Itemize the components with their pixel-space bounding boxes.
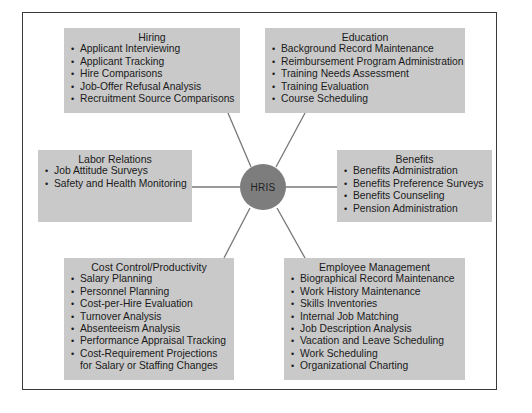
list-item: Cost-Requirement Projections for Salary … [70,348,230,373]
box-title: Labor Relations [44,153,186,165]
list-item: Safety and Health Monitoring [44,178,186,190]
list-item: Course Scheduling [271,93,459,105]
list-item: Benefits Counseling [343,190,486,202]
list-item: Job Attitude Surveys [44,165,186,177]
list-item: Salary Planning [70,273,228,285]
list-item: Performance Appraisal Tracking [70,335,228,347]
list-item: Training Evaluation [271,81,459,93]
list-item: Skills Inventories [290,298,459,310]
list-item: Pension Administration [343,203,486,215]
list-item: Applicant Tracking [70,56,234,68]
list-item: Absenteeism Analysis [70,323,228,335]
list-item: Work History Maintenance [290,286,459,298]
list-item: Internal Job Matching [290,311,459,323]
list-item: Job-Offer Refusal Analysis [70,81,234,93]
list-item: Turnover Analysis [70,311,228,323]
hiring-box: Hiring Applicant Interviewing Applicant … [64,28,240,113]
education-box: Education Background Record Maintenance … [265,28,465,113]
list-item: Vacation and Leave Scheduling [290,335,459,347]
hris-hub-circle: HRIS [240,164,286,210]
list-item: Cost-per-Hire Evaluation [70,298,228,310]
employee-management-box: Employee Management Biographical Record … [284,258,465,380]
list-item: Job Description Analysis [290,323,459,335]
cost-control-box: Cost Control/Productivity Salary Plannin… [64,258,234,380]
benefits-box: Benefits Benefits Administration Benefit… [337,150,492,222]
list-item: Recruitment Source Comparisons [70,93,234,105]
box-title: Hiring [70,31,234,43]
box-title: Education [271,31,459,43]
connector-cost-control [224,208,250,258]
list-item: Background Record Maintenance [271,43,459,55]
list-item: Biographical Record Maintenance [290,273,459,285]
hub-label: HRIS [250,182,275,193]
list-item: Benefits Preference Surveys [343,178,486,190]
list-item: Training Needs Assessment [271,68,459,80]
list-item: Personnel Planning [70,286,228,298]
connector-education [276,113,305,167]
list-item: Reimbursement Program Administration [271,56,459,68]
box-title: Employee Management [290,261,459,273]
list-item: Applicant Interviewing [70,43,234,55]
list-item: Hire Comparisons [70,68,234,80]
connector-employee-management [277,208,305,258]
connector-hiring [228,113,251,167]
list-item: Benefits Administration [343,165,486,177]
labor-relations-box: Labor Relations Job Attitude Surveys Saf… [38,150,192,222]
box-title: Cost Control/Productivity [70,261,228,273]
list-item: Organizational Charting [290,360,459,372]
box-title: Benefits [343,153,486,165]
list-item: Work Scheduling [290,348,459,360]
